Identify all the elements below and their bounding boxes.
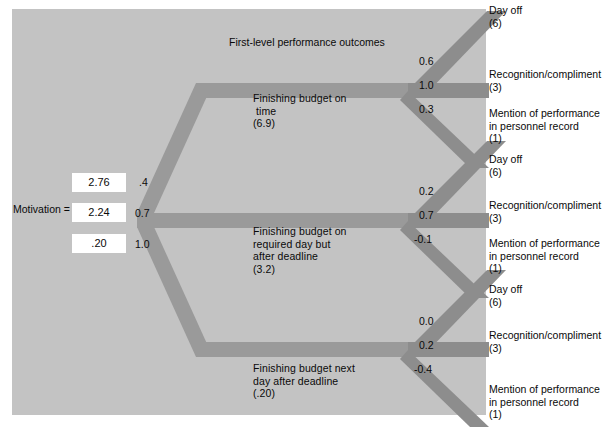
second-level-outcome-1-1: Day off (6) (489, 4, 522, 29)
performance-outcome-label-3: Finishing budget next day after deadline… (253, 362, 355, 400)
expectancy-value-2: 0.7 (135, 207, 150, 219)
motivation-value-box-1: 2.76 (72, 173, 126, 192)
instrumentality-3-1: 0.0 (419, 315, 434, 327)
second-level-outcome-3-1: Day off (6) (489, 283, 522, 308)
instrumentality-1-1: 0.6 (419, 55, 434, 67)
performance-outcome-label-1: Finishing budget on time (6.9) (253, 92, 347, 130)
second-level-outcome-3-3: Mention of performance in personnel reco… (489, 383, 600, 421)
expectancy-value-1: .4 (139, 176, 148, 188)
instrumentality-2-1: 0.2 (419, 185, 434, 197)
motivation-value-box-2: 2.24 (72, 203, 126, 222)
instrumentality-2-3: -0.1 (414, 233, 432, 245)
second-level-outcome-1-2: Recognition/compliment (3) (489, 68, 601, 93)
motivation-label: Motivation = (13, 203, 70, 215)
ribbon-fork-top (137, 83, 213, 213)
instrumentality-1-2: 1.0 (419, 79, 434, 91)
second-level-outcome-1-3: Mention of performance in personnel reco… (489, 107, 600, 145)
ribbon-fan3-down (400, 350, 489, 427)
second-level-outcome-2-2: Recognition/compliment (3) (489, 199, 601, 224)
second-level-outcome-3-2: Recognition/compliment (3) (489, 329, 601, 354)
expectancy-value-3: 1.0 (135, 238, 150, 250)
instrumentality-1-3: 0.3 (419, 103, 434, 115)
instrumentality-3-2: 0.2 (419, 339, 434, 351)
instrumentality-2-2: 0.7 (419, 209, 434, 221)
motivation-value-box-3: .20 (72, 234, 126, 253)
second-level-outcome-2-3: Mention of performance in personnel reco… (489, 237, 600, 275)
ribbon-branch-bottom (196, 342, 420, 357)
section-heading: First-level performance outcomes (229, 36, 385, 48)
instrumentality-3-3: -0.4 (414, 363, 432, 375)
second-level-outcome-2-1: Day off (6) (489, 153, 522, 178)
diagram-canvas: First-level performance outcomes Motivat… (0, 0, 613, 431)
performance-outcome-label-2: Finishing budget on required day but aft… (253, 225, 347, 275)
